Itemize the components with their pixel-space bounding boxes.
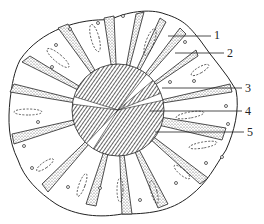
central-zone — [72, 64, 164, 156]
callout-label-2: 2 — [227, 47, 233, 59]
callout-label-3: 3 — [245, 82, 251, 94]
callout-label-4: 4 — [245, 105, 251, 117]
callout-label-1: 1 — [214, 29, 220, 41]
cross-section-diagram — [0, 0, 264, 224]
callout-label-5: 5 — [247, 126, 253, 138]
